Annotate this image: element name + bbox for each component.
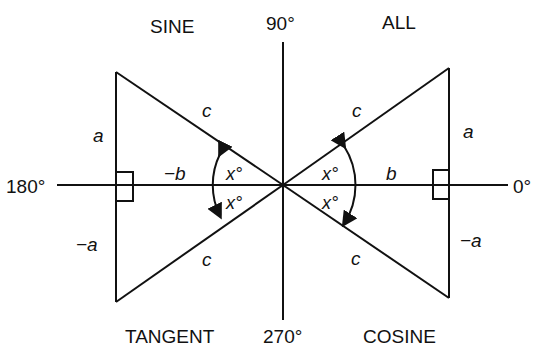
top-right-hypotenuse: [283, 68, 449, 185]
top-right-hypotenuse-label: c: [352, 100, 362, 121]
bottom-right-hypotenuse: [283, 185, 449, 298]
axis-label-180: 180°: [6, 176, 45, 197]
axis-label-0: 0°: [513, 176, 531, 197]
left-right-angle-marker: [116, 172, 133, 201]
top-left-adjacent-label: −b: [164, 163, 186, 184]
top-left-hypotenuse: [116, 72, 283, 185]
quadrant-label-sine: SINE: [150, 16, 194, 37]
top-right-angle-label: x°: [321, 164, 338, 184]
top-left-angle-label: x°: [225, 164, 242, 184]
axis-label-270: 270°: [263, 326, 302, 347]
quadrant-label-cosine: COSINE: [363, 326, 436, 347]
bottom-left-hypotenuse: [116, 185, 283, 302]
axis-label-90: 90°: [266, 13, 295, 34]
top-right-opposite-label: a: [463, 121, 474, 142]
origin-point: [281, 183, 286, 188]
bottom-left-opposite-label: −a: [76, 234, 98, 255]
bottom-right-angle-label: x°: [321, 193, 338, 213]
bottom-right-opposite-label: −a: [460, 230, 482, 251]
quadrant-label-all: ALL: [382, 12, 416, 33]
cast-diagram: SINE ALL TANGENT COSINE 90° 0° 180° 270°…: [0, 0, 538, 350]
bottom-right-hypotenuse-label: c: [351, 248, 361, 269]
bottom-left-angle-label: x°: [225, 193, 242, 213]
left-triangles: [116, 72, 283, 302]
quadrant-label-tangent: TANGENT: [125, 326, 215, 347]
top-right-adjacent-label: b: [386, 163, 397, 184]
top-left-opposite-label: a: [93, 125, 104, 146]
top-left-hypotenuse-label: c: [202, 100, 212, 121]
bottom-left-hypotenuse-label: c: [202, 249, 212, 270]
right-triangles: [283, 68, 449, 298]
